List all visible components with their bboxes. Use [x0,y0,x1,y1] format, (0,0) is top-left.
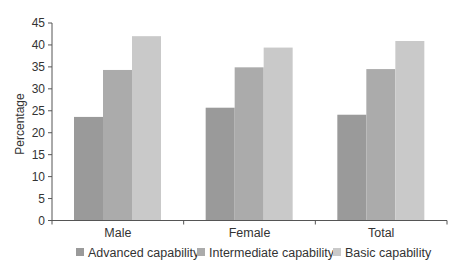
bar-advanced-capability-female [206,108,235,221]
bar-chart: 051015202530354045 MaleFemaleTotal Perce… [0,0,466,269]
legend: Advanced capabilityIntermediate capabili… [76,246,432,260]
bars [74,36,424,220]
bar-intermediate-capability-male [103,70,132,221]
y-tick-label: 45 [32,16,46,30]
y-tick-label: 15 [32,148,46,162]
legend-label: Advanced capability [88,246,200,260]
y-axis: 051015202530354045 [32,16,52,228]
bar-basic-capability-total [395,41,424,221]
x-axis: MaleFemaleTotal [52,221,447,241]
bar-intermediate-capability-female [235,67,264,220]
y-tick-label: 10 [32,170,46,184]
y-tick-label: 0 [38,214,45,228]
legend-label: Intermediate capability [209,246,335,260]
y-tick-label: 30 [32,82,46,96]
y-tick-label: 35 [32,60,46,74]
bar-intermediate-capability-total [366,69,395,220]
x-category-label: Male [104,226,131,240]
legend-label: Basic capability [345,246,432,260]
bar-basic-capability-female [264,48,293,221]
y-tick-label: 20 [32,126,46,140]
bar-advanced-capability-male [74,117,103,221]
y-tick-label: 25 [32,104,46,118]
legend-swatch [333,248,341,256]
legend-swatch [76,248,84,256]
x-category-label: Total [368,226,394,240]
y-axis-title: Percentage [13,93,27,155]
bar-basic-capability-male [132,36,161,220]
y-tick-label: 5 [38,192,45,206]
y-tick-label: 40 [32,38,46,52]
legend-swatch [197,248,205,256]
x-category-label: Female [229,226,271,240]
bar-advanced-capability-total [337,115,366,221]
